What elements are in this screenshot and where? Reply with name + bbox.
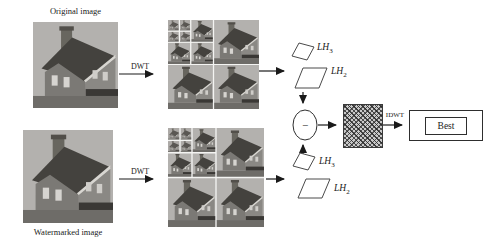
dwt-top-label: DWT <box>119 61 161 72</box>
original-image-photo <box>33 22 118 108</box>
dwt-bottom-label: DWT <box>119 166 161 177</box>
lh2-top-label: LH2 <box>331 66 347 79</box>
watermarked-image-photo <box>23 130 113 223</box>
lh3-bottom-parallelogram <box>293 153 315 170</box>
dwt-decomposition-bottom <box>168 128 264 227</box>
diagram-canvas: Original image Watermarked image <box>0 0 494 245</box>
lh3-bottom-base: LH <box>319 156 331 166</box>
lh2-bottom-label: LH2 <box>334 183 350 196</box>
watermarked-image-label: Watermarked image <box>23 227 113 237</box>
lh2-bottom-parallelogram <box>298 179 330 198</box>
lh3-top-label: LH3 <box>317 42 333 55</box>
lh3-bottom-sub: 3 <box>331 161 335 169</box>
lh3-top-sub: 3 <box>329 47 333 55</box>
hatched-block <box>343 104 383 148</box>
idwt-label: IDWT <box>383 110 407 121</box>
lh3-bottom-label: LH3 <box>319 156 335 169</box>
best-inner-box: Best <box>425 117 467 135</box>
subtract-node <box>293 110 317 140</box>
best-outer-box: Best <box>409 110 483 141</box>
subtract-symbol: − <box>302 119 308 131</box>
lh2-top-parallelogram <box>295 68 327 88</box>
dwt-decomposition-top <box>168 20 259 109</box>
lh2-bottom-sub: 2 <box>346 188 350 196</box>
lh3-top-parallelogram <box>292 43 314 60</box>
lh2-top-sub: 2 <box>343 71 347 79</box>
lh2-top-base: LH <box>331 66 343 76</box>
best-label: Best <box>438 121 455 131</box>
lh3-top-base: LH <box>317 42 329 52</box>
original-image-label: Original image <box>33 6 118 16</box>
lh2-bottom-base: LH <box>334 183 346 193</box>
